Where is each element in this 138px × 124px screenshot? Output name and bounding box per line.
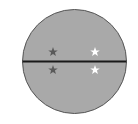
circle-diagram [0, 0, 138, 124]
